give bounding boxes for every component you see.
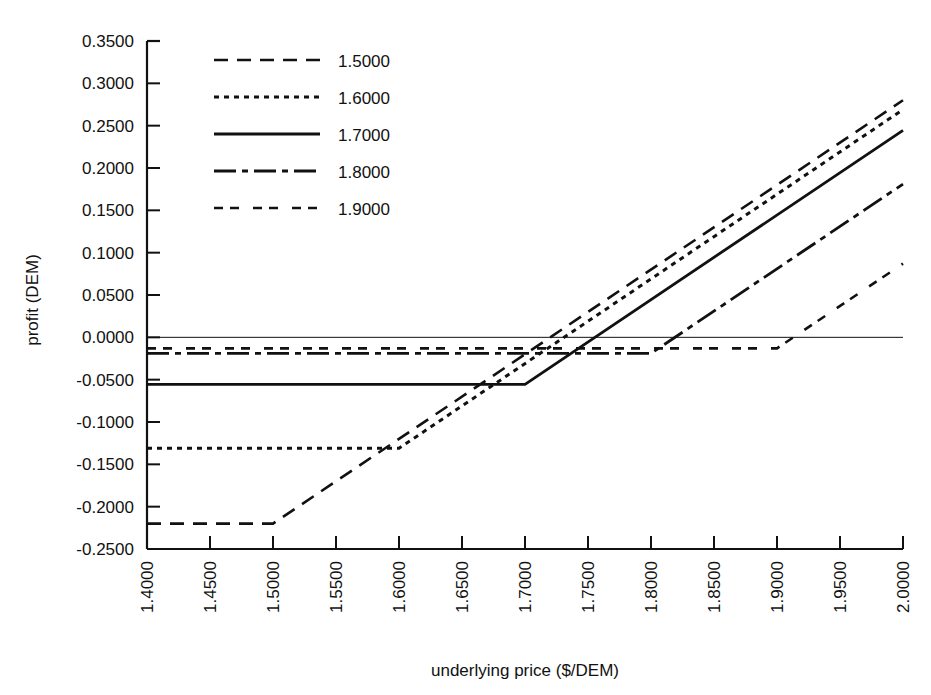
x-tick-label: 1.4000 xyxy=(138,561,157,613)
chart-figure: 0.35000.30000.25000.20000.15000.10000.05… xyxy=(0,0,931,695)
x-tick-label: 1.7000 xyxy=(516,561,535,613)
y-tick-label: 0.2500 xyxy=(82,117,134,136)
x-tick-label: 1.5500 xyxy=(327,561,346,613)
x-tick-label: 1.8500 xyxy=(705,561,724,613)
y-tick-label: -0.2000 xyxy=(76,498,134,517)
axis-lines xyxy=(147,41,903,549)
series-line-1.6000 xyxy=(147,110,903,449)
series-group xyxy=(147,100,903,523)
y-tick-label: -0.1500 xyxy=(76,455,134,474)
x-axis-title: underlying price ($/DEM) xyxy=(431,661,619,680)
legend-label-1.5000: 1.5000 xyxy=(338,52,390,71)
legend-label-1.7000: 1.7000 xyxy=(338,126,390,145)
y-tick-label: 0.3000 xyxy=(82,74,134,93)
legend-label-1.6000: 1.6000 xyxy=(338,89,390,108)
x-tick-label: 2.0000 xyxy=(894,561,913,613)
x-tick-label: 1.9000 xyxy=(768,561,787,613)
legend-label-1.9000: 1.9000 xyxy=(338,200,390,219)
y-tick-label: -0.1000 xyxy=(76,413,134,432)
series-line-1.9000 xyxy=(147,264,903,349)
y-tick-group xyxy=(147,41,160,549)
y-tick-label: 0.3500 xyxy=(82,32,134,51)
y-tick-label: 0.1500 xyxy=(82,201,134,220)
y-tick-label: 0.1000 xyxy=(82,244,134,263)
y-axis-title: profit (DEM) xyxy=(23,254,42,346)
x-tick-group xyxy=(147,536,903,549)
x-tick-label: 1.8000 xyxy=(642,561,661,613)
x-tick-label-group: 1.40001.45001.50001.55001.60001.65001.70… xyxy=(138,561,913,613)
series-line-1.7000 xyxy=(147,130,903,384)
x-tick-label: 1.9500 xyxy=(831,561,850,613)
x-tick-label: 1.7500 xyxy=(579,561,598,613)
series-line-1.5000 xyxy=(147,100,903,523)
payoff-chart: 0.35000.30000.25000.20000.15000.10000.05… xyxy=(0,0,931,695)
y-tick-label: 0.2000 xyxy=(82,159,134,178)
legend-label-1.8000: 1.8000 xyxy=(338,163,390,182)
x-tick-label: 1.6500 xyxy=(453,561,472,613)
y-tick-label-group: 0.35000.30000.25000.20000.15000.10000.05… xyxy=(76,32,134,559)
chart-legend: 1.50001.60001.70001.80001.9000 xyxy=(214,52,390,219)
x-tick-label: 1.5000 xyxy=(264,561,283,613)
y-tick-label: -0.0500 xyxy=(76,371,134,390)
series-line-1.8000 xyxy=(147,184,903,353)
x-tick-label: 1.6000 xyxy=(390,561,409,613)
x-tick-label: 1.4500 xyxy=(201,561,220,613)
y-tick-label: 0.0000 xyxy=(82,328,134,347)
y-tick-label: -0.2500 xyxy=(76,540,134,559)
y-tick-label: 0.0500 xyxy=(82,286,134,305)
